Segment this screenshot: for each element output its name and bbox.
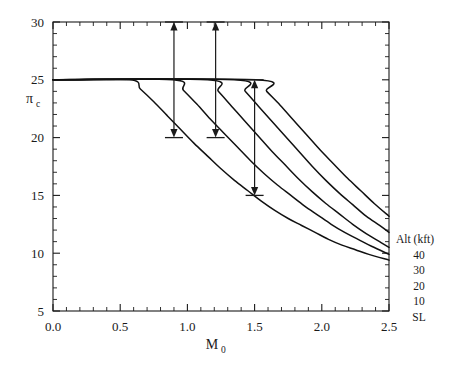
- y-tick-label: 5: [38, 304, 45, 319]
- chart-figure: 0.00.51.01.52.02.5 51015202530 Alt (kft)…: [0, 0, 460, 365]
- y-axis-title: π c: [26, 91, 40, 109]
- x-axis-title-subscript: 0: [221, 345, 226, 355]
- annotation-arrows: [165, 22, 264, 195]
- arrow-2-head-down-icon: [212, 129, 219, 138]
- y-axis-title-text: π: [26, 91, 33, 106]
- arrow-3: [246, 80, 264, 196]
- y-tick-label: 10: [31, 246, 44, 261]
- y-tick-label: 30: [31, 15, 44, 30]
- curve-20: [53, 79, 389, 247]
- legend-entry-40: 40: [413, 249, 425, 261]
- legend-entry-30: 30: [413, 264, 425, 276]
- arrow-1-head-down-icon: [170, 129, 177, 138]
- plot-frame: [53, 22, 389, 311]
- x-tick-label: 1.0: [179, 319, 195, 334]
- y-axis-tick-labels: 51015202530: [31, 15, 44, 319]
- x-axis-title-text: M: [206, 337, 219, 352]
- y-tick-label: 20: [31, 130, 44, 145]
- legend-title: Alt (kft): [396, 233, 434, 246]
- y-axis-ticks: [53, 22, 389, 311]
- x-tick-label: 0.5: [112, 319, 128, 334]
- axes-frame: [53, 22, 389, 311]
- x-tick-label: 1.5: [246, 319, 262, 334]
- x-tick-label: 2.5: [381, 319, 397, 334]
- y-tick-label: 15: [31, 188, 44, 203]
- legend-entry-10: 10: [413, 295, 425, 307]
- legend: Alt (kft)40302010SL: [396, 233, 434, 323]
- arrow-3-head-up-icon: [251, 80, 258, 89]
- legend-entry-sl: SL: [412, 311, 425, 323]
- arrow-1-head-up-icon: [170, 22, 177, 31]
- x-axis-tick-labels: 0.00.51.01.52.02.5: [45, 319, 397, 334]
- legend-entry-20: 20: [413, 280, 425, 292]
- chart-svg: 0.00.51.01.52.02.5 51015202530 Alt (kft)…: [0, 0, 460, 365]
- data-curves: [53, 79, 389, 260]
- x-axis-title: M 0: [206, 337, 226, 355]
- x-tick-label: 0.0: [45, 319, 61, 334]
- x-tick-label: 2.0: [314, 319, 330, 334]
- y-axis-title-subscript: c: [36, 99, 40, 109]
- x-axis-ticks: [53, 22, 389, 311]
- curve-10: [53, 79, 389, 232]
- curve-30: [53, 79, 389, 254]
- arrow-2-head-up-icon: [212, 22, 219, 31]
- curve-sl: [53, 79, 389, 216]
- y-tick-label: 25: [31, 72, 44, 87]
